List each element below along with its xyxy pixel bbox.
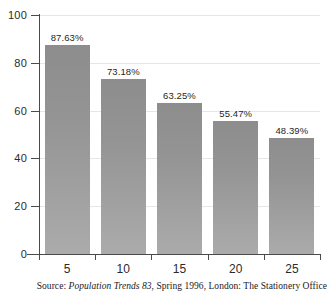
x-axis-tick xyxy=(151,254,152,260)
x-axis-tick-label: 25 xyxy=(285,262,298,276)
y-axis-tick-label: 40 xyxy=(14,152,27,164)
gridline xyxy=(39,15,320,16)
y-axis-line xyxy=(39,14,40,255)
source-caption: Source: Population Trends 83, Spring 199… xyxy=(0,281,327,291)
x-axis-tick xyxy=(39,254,40,260)
source-title: Population Trends 83 xyxy=(69,281,152,291)
bar-value-label: 87.63% xyxy=(51,32,84,43)
y-axis-tick-label: 20 xyxy=(14,200,27,212)
bar xyxy=(45,45,90,254)
x-axis-end-cap xyxy=(320,254,321,260)
bar xyxy=(213,121,258,254)
bar-value-label: 55.47% xyxy=(219,108,252,119)
bar-value-label: 48.39% xyxy=(275,125,308,136)
y-axis-tick xyxy=(31,254,39,255)
y-axis-tick xyxy=(31,63,39,64)
bar-value-label: 73.18% xyxy=(107,66,140,77)
x-axis-tick xyxy=(208,254,209,260)
x-axis-tick xyxy=(95,254,96,260)
y-axis-tick-label: 100 xyxy=(8,9,27,21)
x-axis-tick-label: 5 xyxy=(64,262,71,276)
y-axis-tick xyxy=(31,206,39,207)
x-axis-tick-label: 20 xyxy=(229,262,242,276)
bar xyxy=(269,138,314,254)
y-axis-tick xyxy=(31,111,39,112)
bar xyxy=(101,79,146,254)
bar xyxy=(157,103,202,254)
source-suffix: , Spring 1996, London: The Stationery Of… xyxy=(152,281,327,291)
bar-chart-figure: 020406080100 510152025 87.63%73.18%63.25… xyxy=(0,0,333,298)
x-axis-tick-label: 15 xyxy=(173,262,186,276)
x-axis-tick-label: 10 xyxy=(117,262,130,276)
y-axis-tick xyxy=(31,158,39,159)
y-axis-tick-label: 60 xyxy=(14,105,27,117)
y-axis-tick xyxy=(31,15,39,16)
y-axis-tick-label: 80 xyxy=(14,57,27,69)
bar-value-label: 63.25% xyxy=(163,90,196,101)
y-axis-tick-label: 0 xyxy=(21,248,27,260)
x-axis-line xyxy=(27,254,321,255)
x-axis-tick xyxy=(264,254,265,260)
source-prefix: Source: xyxy=(37,281,66,291)
